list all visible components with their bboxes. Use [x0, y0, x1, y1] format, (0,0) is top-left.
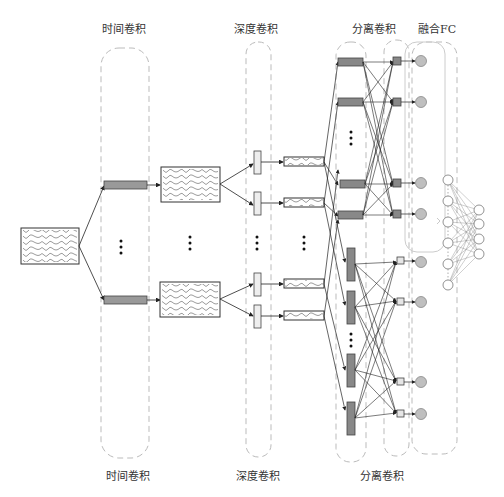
label-depth-conv-bottom: 深度卷积	[236, 467, 280, 483]
upper-dense-connections	[363, 62, 393, 215]
temporal-conv-container	[101, 48, 149, 458]
depth-ellipsis	[256, 236, 259, 251]
pointwise-upper-squares	[393, 57, 401, 218]
architecture-diagram	[0, 0, 504, 497]
depth-to-strip-arrows	[261, 162, 283, 316]
separable-lower-ellipsis	[350, 333, 353, 348]
lower-dense-connections	[355, 262, 396, 418]
label-separable-conv-top: 分离卷积	[352, 20, 396, 36]
label-separable-conv-bottom: 分离卷积	[360, 467, 404, 483]
input-connections	[79, 186, 104, 300]
pointwise-lower-squares	[397, 257, 404, 417]
label-fusion-fc-top: 融合FC	[418, 20, 456, 36]
strip-ellipsis	[303, 236, 306, 251]
label-temporal-conv-top: 时间卷积	[102, 20, 146, 36]
label-depth-conv-top: 深度卷积	[234, 20, 278, 36]
fc-bracket	[437, 218, 440, 224]
square-to-circle-arrows	[401, 61, 415, 414]
feature-ellipsis	[189, 236, 192, 251]
temporal-to-feature-arrows	[147, 185, 160, 300]
label-temporal-conv-bottom: 时间卷积	[106, 467, 150, 483]
depth-conv-container	[246, 42, 271, 457]
separable-upper-ellipsis	[350, 131, 353, 146]
temporal-ellipsis	[120, 240, 123, 255]
strip-to-separable-lines	[324, 62, 345, 410]
fc-connections	[448, 180, 479, 285]
feature-to-depth-arrows	[220, 164, 253, 316]
depth-filters	[254, 151, 261, 328]
output-circles	[416, 56, 427, 420]
temporal-bars	[104, 181, 147, 304]
dashed-containers	[101, 40, 457, 462]
input-eeg-box	[21, 228, 79, 264]
